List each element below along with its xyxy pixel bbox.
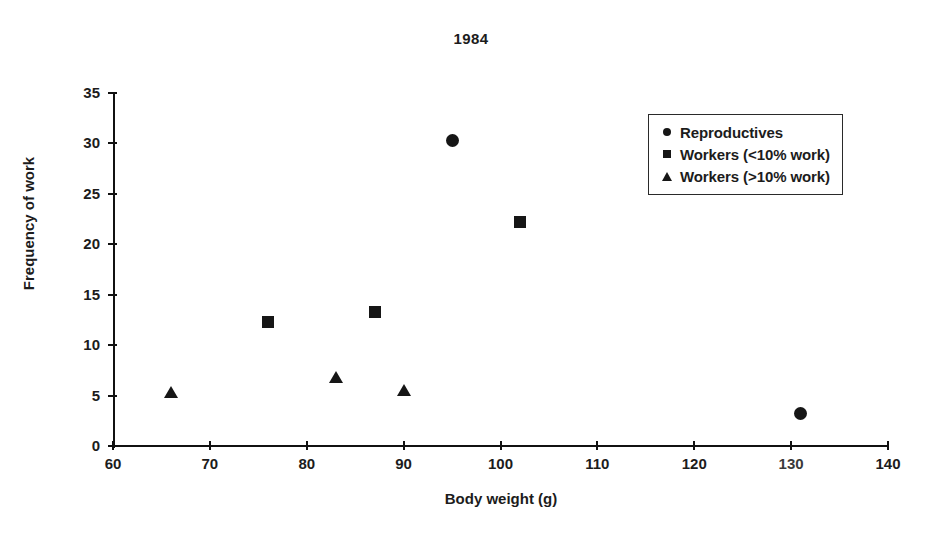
data-point-square (262, 316, 274, 328)
legend-item-label: Workers (<10% work) (680, 146, 830, 163)
data-point-square (369, 306, 381, 318)
data-point-triangle (329, 371, 343, 383)
data-point-square (514, 216, 526, 228)
data-point-circle (794, 407, 807, 420)
x-tick-label: 110 (567, 455, 627, 472)
y-tick-label: 0 (56, 437, 100, 454)
x-axis-label: Body weight (g) (113, 490, 889, 507)
legend-item[interactable]: Reproductives (659, 121, 830, 143)
y-tick-label: 10 (56, 336, 100, 353)
y-tick-label: 30 (56, 134, 100, 151)
legend-item[interactable]: Workers (<10% work) (659, 143, 830, 165)
y-tick-label: 35 (56, 84, 100, 101)
legend-item-label: Workers (>10% work) (680, 168, 830, 185)
x-tick-label: 120 (664, 455, 724, 472)
x-tick-label: 90 (374, 455, 434, 472)
y-tick-label: 15 (56, 286, 100, 303)
legend-square-icon (659, 150, 675, 158)
x-tick-label: 60 (83, 455, 143, 472)
x-tick-label: 130 (761, 455, 821, 472)
chart-title: 1984 (0, 30, 942, 47)
x-tick-label: 140 (858, 455, 918, 472)
data-point-triangle (397, 384, 411, 396)
y-tick-label: 25 (56, 185, 100, 202)
x-tick-label: 70 (180, 455, 240, 472)
x-tick-label: 80 (277, 455, 337, 472)
x-tick-label: 100 (471, 455, 531, 472)
data-point-triangle (164, 386, 178, 398)
data-point-circle (446, 134, 459, 147)
legend-triangle-icon (659, 172, 675, 181)
y-tick-label: 20 (56, 235, 100, 252)
scatter-chart-figure: 1984 05101520253035 60708090100110120130… (0, 0, 942, 540)
y-tick-label: 5 (56, 387, 100, 404)
legend-item-label: Reproductives (680, 124, 783, 141)
y-axis-label: Frequency of work (20, 84, 37, 364)
legend-item[interactable]: Workers (>10% work) (659, 165, 830, 187)
legend-circle-icon (659, 128, 675, 136)
chart-legend: ReproductivesWorkers (<10% work)Workers … (648, 114, 843, 195)
